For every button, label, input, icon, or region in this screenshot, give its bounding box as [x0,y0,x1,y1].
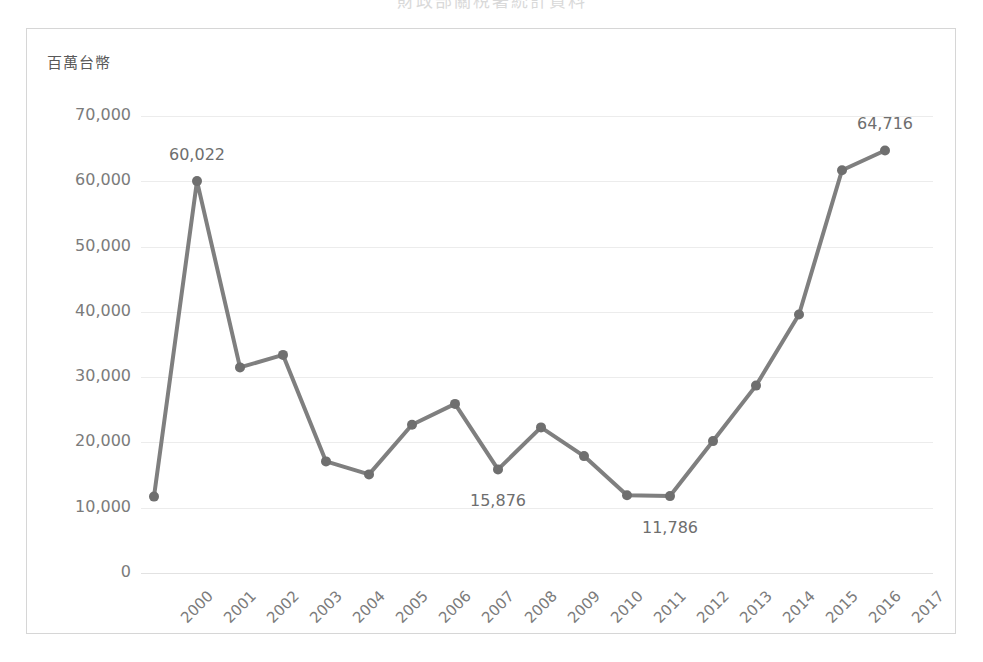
data-point-marker [450,399,460,409]
data-point-marker [665,491,675,501]
clipped-title-strip: 財政部關稅署統計資料 [0,0,983,11]
chart-frame: 百萬台幣 70,00060,00050,00040,00030,00020,00… [26,28,956,634]
data-point-marker [149,492,159,502]
data-point-label: 64,716 [857,114,913,133]
data-point-marker [407,420,417,430]
data-point-marker [364,469,374,479]
plot-area: 70,00060,00050,00040,00030,00020,00010,0… [27,29,957,635]
data-point-label: 60,022 [169,145,225,164]
data-point-label: 15,876 [470,491,526,510]
data-point-marker [235,362,245,372]
data-point-marker [837,165,847,175]
data-point-marker [278,350,288,360]
data-point-marker [751,381,761,391]
data-point-marker [794,310,804,320]
chart-page: 財政部關稅署統計資料 百萬台幣 70,00060,00050,00040,000… [0,0,983,662]
line-series [27,29,957,635]
data-point-marker [493,464,503,474]
series-polyline [154,151,885,497]
data-point-marker [622,490,632,500]
data-point-marker [321,456,331,466]
data-point-label: 11,786 [642,518,698,537]
data-point-marker [708,436,718,446]
data-point-marker [579,451,589,461]
data-point-marker [536,422,546,432]
data-point-marker [192,176,202,186]
data-point-marker [880,146,890,156]
page-title: 財政部關稅署統計資料 [0,0,983,11]
